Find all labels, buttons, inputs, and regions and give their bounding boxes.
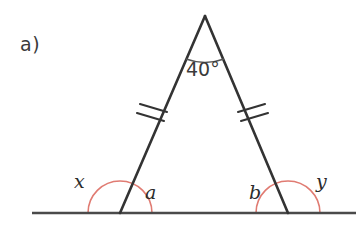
part-label: a) bbox=[20, 35, 40, 54]
triangle-right-leg bbox=[205, 16, 288, 213]
angle-label-a: a bbox=[145, 183, 156, 202]
figure-canvas bbox=[0, 0, 356, 230]
angle-arc-right-red bbox=[256, 181, 320, 213]
triangle-left-leg bbox=[120, 16, 205, 213]
tick-left-2 bbox=[137, 113, 164, 121]
angle-label-b: b bbox=[249, 183, 261, 202]
angle-label-x: x bbox=[74, 172, 85, 191]
apex-angle-label: 40° bbox=[186, 60, 220, 79]
geometry-figure: a) 40° x a b y bbox=[0, 0, 356, 230]
tick-left-1 bbox=[140, 104, 167, 112]
angle-label-y: y bbox=[316, 172, 327, 191]
angle-arc-left-red bbox=[88, 181, 152, 213]
